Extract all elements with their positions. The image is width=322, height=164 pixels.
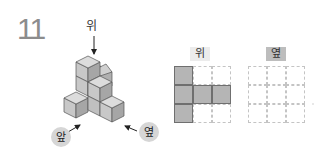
grid-cell: [193, 104, 212, 123]
grid-cell[interactable]: [267, 66, 286, 85]
side-view-title: 옆: [266, 47, 286, 61]
grid-cell: [174, 85, 193, 104]
grid-cell[interactable]: [267, 104, 286, 123]
top-direction-label: 위: [86, 20, 97, 32]
side-view-grid[interactable]: [248, 66, 305, 123]
grid-cell: [212, 104, 231, 123]
side-arrow-icon: [125, 126, 137, 131]
grid-cell: [174, 66, 193, 85]
grid-cell: [212, 66, 231, 85]
side-direction-label: 옆: [139, 122, 159, 142]
grid-cell[interactable]: [248, 104, 267, 123]
grid-cell: [193, 66, 212, 85]
grid-cell[interactable]: [286, 66, 305, 85]
top-view-title: 위: [190, 47, 210, 61]
front-direction-label: 앞: [51, 127, 71, 147]
grid-cell: [174, 104, 193, 123]
grid-cell: [212, 85, 231, 104]
grid-cell: [193, 85, 212, 104]
grid-cell[interactable]: [248, 85, 267, 104]
grid-cell[interactable]: [286, 85, 305, 104]
top-view-grid: [174, 66, 231, 123]
front-arrow-icon: [68, 125, 80, 132]
grid-cell[interactable]: [267, 85, 286, 104]
decorative-dot: [312, 103, 314, 105]
grid-cell[interactable]: [248, 66, 267, 85]
grid-cell[interactable]: [286, 104, 305, 123]
